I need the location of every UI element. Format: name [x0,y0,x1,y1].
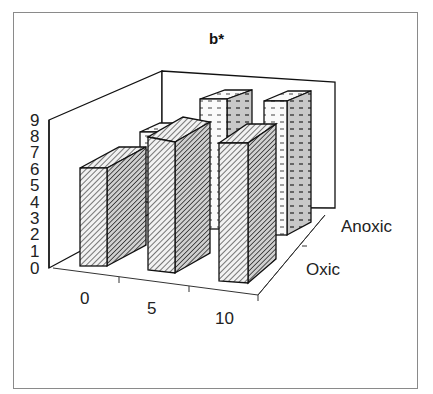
depth-label-oxic: Oxic [306,260,341,279]
depth-label-anoxic: Anoxic [341,217,393,236]
bar-oxic-0 [80,147,146,266]
x-tick-5: 5 [147,299,156,318]
bar-oxic-10 [219,124,276,283]
x-tick-0: 0 [80,289,89,308]
x-axis: 0 5 10 [80,277,258,328]
y-axis: 9 8 7 6 5 4 3 2 1 0 [30,111,49,278]
y-tick-0: 0 [30,259,39,278]
x-tick-10: 10 [215,309,234,328]
bar-oxic-5 [148,117,210,273]
chart-plot: 9 8 7 6 5 4 3 2 1 0 [0,0,433,394]
